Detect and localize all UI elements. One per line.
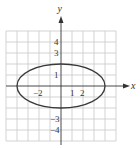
x-axis-arrow-icon xyxy=(123,84,130,89)
x-axis-label: x xyxy=(130,80,136,91)
y-axis-arrow-icon xyxy=(59,16,64,23)
y-tick-4: 4 xyxy=(54,37,59,47)
axes xyxy=(6,20,126,145)
y-tick-neg3: −3 xyxy=(50,114,60,124)
ellipse-graph: x y −2 1 2 4 3 1 −3 −4 xyxy=(0,0,140,148)
y-tick-1: 1 xyxy=(54,70,59,80)
x-tick-neg2: −2 xyxy=(33,88,43,98)
y-tick-3: 3 xyxy=(54,48,59,58)
y-tick-neg4: −4 xyxy=(50,125,60,135)
x-tick-2: 2 xyxy=(80,88,85,98)
x-tick-1: 1 xyxy=(70,88,75,98)
y-axis-label: y xyxy=(57,3,63,14)
